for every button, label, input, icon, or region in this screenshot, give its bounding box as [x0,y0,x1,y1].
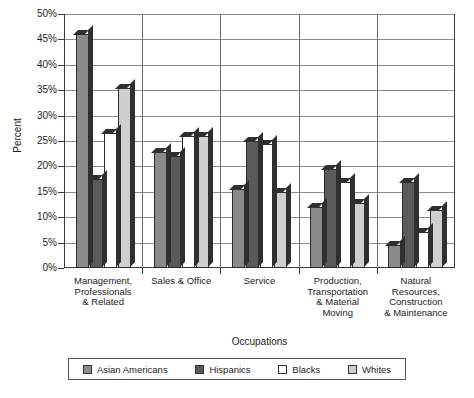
x-axis-category-label: Production,Transportation& MaterialMovin… [299,276,377,318]
y-axis-tick-label: 0% [17,262,57,273]
bar-side-face [130,79,135,267]
legend-swatch-icon [83,365,92,374]
bar-side-face [364,194,369,267]
bar-top-face [307,203,323,208]
bar-chart: Percent 0%5%10%15%20%25%30%35%40%45%50% … [0,0,474,398]
x-axis-tick-mark [142,268,143,274]
bar-top-face [427,206,443,211]
x-axis-tick-mark [299,268,300,274]
legend-label: Asian Americans [97,364,168,375]
bar-side-face [88,25,93,267]
bar-top-face [101,129,117,134]
y-axis-tick-label: 15% [17,186,57,197]
bar-side-face [286,183,291,267]
y-axis-tick-label: 20% [17,160,57,171]
legend-swatch-icon [195,365,204,374]
category-label-line: Production, [299,276,377,287]
y-axis-tick-label: 10% [17,211,57,222]
bar-side-face [244,180,249,267]
legend-item[interactable]: Hispanics [195,364,250,375]
group-separator [299,14,300,268]
bar-side-face [322,198,327,267]
legend-swatch-icon [348,365,357,374]
bar-side-face [258,132,263,267]
bar [76,34,89,268]
y-axis-tick-label: 40% [17,59,57,70]
legend-item[interactable]: Blacks [278,364,320,375]
x-axis-category-label: Sales & Office [142,276,220,287]
bar-side-face [180,147,185,267]
bar-top-face [243,137,259,142]
group-separator [220,14,221,268]
bar-side-face [336,160,341,267]
y-axis-tick-label: 5% [17,237,57,248]
bar-side-face [428,223,433,267]
category-label-line: Moving [299,308,377,319]
y-axis-tick-label: 50% [17,8,57,19]
bar-side-face [194,127,199,267]
x-axis-tick-mark [220,268,221,274]
bar-side-face [442,201,447,267]
bar [232,189,245,268]
category-label-line: Sales & Office [142,276,220,287]
x-axis-category-label: NaturalResources,Construction& Maintenan… [377,276,455,318]
legend-swatch-icon [278,365,287,374]
bar-top-face [115,84,131,89]
bar-top-face [151,148,167,153]
bar-top-face [399,178,415,183]
x-axis-category-label: Management,Professionals& Related [64,276,142,308]
bar-side-face [116,124,121,267]
bar-top-face [385,241,401,246]
bar-side-face [272,135,277,267]
y-axis-tick-label: 45% [17,33,57,44]
bars-layer [64,14,455,268]
group-separator [142,14,143,268]
legend-item[interactable]: Asian Americans [83,364,168,375]
legend-label: Hispanics [209,364,250,375]
legend-label: Blacks [292,364,320,375]
chart-legend: Asian AmericansHispanicsBlacksWhites [68,358,406,380]
bar-side-face [350,173,355,267]
y-axis-tick-label: 25% [17,135,57,146]
category-label-line: & Maintenance [377,308,455,319]
legend-label: Whites [362,364,391,375]
bar [388,245,401,268]
x-axis-tick-mark [377,268,378,274]
bar [310,207,323,268]
group-separator [377,14,378,268]
bar [154,152,167,268]
legend-item[interactable]: Whites [348,364,391,375]
bar-top-face [321,165,337,170]
category-label-line: & Related [64,297,142,308]
category-label-line: Service [220,276,298,287]
y-axis-tick-label: 30% [17,110,57,121]
bar-top-face [229,185,245,190]
bar-top-face [179,132,195,137]
category-label-line: Management, [64,276,142,287]
x-axis-title: Occupations [64,336,455,347]
bar-side-face [414,173,419,267]
bar-side-face [102,170,107,267]
y-axis-tick-label: 35% [17,84,57,95]
bar-side-face [166,143,171,267]
x-axis-category-label: Service [220,276,298,287]
y-axis-tick-mark [58,268,64,269]
category-label-line: Natural [377,276,455,287]
bar-top-face [73,30,89,35]
x-axis-category-labels: Management,Professionals& RelatedSales &… [64,276,455,332]
bar-side-face [208,127,213,267]
